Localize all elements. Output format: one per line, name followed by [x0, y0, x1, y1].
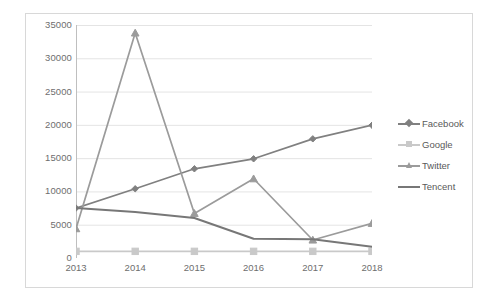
- data-point: [131, 29, 139, 36]
- data-point: [76, 248, 79, 254]
- x-axis-tick-label: 2018: [349, 262, 395, 274]
- legend-label: Google: [422, 139, 453, 150]
- y-axis-tick-label: 20000: [24, 120, 72, 130]
- y-axis-tick-label: 15000: [24, 153, 72, 163]
- x-axis-tick-label: 2014: [112, 262, 158, 274]
- legend-label: Tencent: [422, 181, 455, 192]
- series-line: [76, 208, 372, 247]
- legend-diamond-marker-icon: [405, 118, 413, 126]
- y-axis-tick-label: 25000: [24, 87, 72, 97]
- legend-label: Twitter: [422, 160, 450, 171]
- data-point: [191, 248, 197, 254]
- data-point: [368, 220, 372, 227]
- y-axis-tick-label: 10000: [24, 186, 72, 196]
- series-facebook: [76, 122, 372, 211]
- y-axis-tick-label: 30000: [24, 53, 72, 63]
- data-point: [132, 248, 138, 254]
- x-axis: 201320142015201620172018: [76, 262, 372, 278]
- y-axis: 35000300002500020000150001000050000: [20, 0, 72, 303]
- legend-triangle-marker-icon: [406, 162, 412, 168]
- data-point: [310, 248, 316, 254]
- data-point: [250, 175, 258, 182]
- data-point: [250, 156, 256, 162]
- x-axis-tick-label: 2015: [171, 262, 217, 274]
- legend-square-marker-icon: [406, 141, 412, 147]
- x-axis-tick-label: 2013: [53, 262, 99, 274]
- legend-item-facebook[interactable]: Facebook: [398, 113, 494, 134]
- legend-label: Facebook: [422, 118, 464, 129]
- y-axis-tick-label: 35000: [24, 20, 72, 30]
- data-point: [191, 210, 199, 217]
- data-point: [369, 122, 372, 128]
- x-axis-tick-label: 2016: [231, 262, 277, 274]
- data-point: [250, 248, 256, 254]
- legend-swatch-icon: [398, 118, 420, 130]
- legend-swatch-icon: [398, 160, 420, 172]
- chart-legend: FacebookGoogleTwitterTencent: [398, 113, 494, 197]
- data-point: [310, 136, 316, 142]
- legend-swatch-icon: [398, 139, 420, 151]
- data-point: [132, 186, 138, 192]
- series-google: [76, 248, 372, 254]
- data-point: [191, 166, 197, 172]
- legend-line: [398, 186, 420, 188]
- legend-item-tencent[interactable]: Tencent: [398, 176, 494, 197]
- legend-swatch-icon: [398, 181, 420, 193]
- y-axis-tick-label: 5000: [24, 220, 72, 230]
- plot-area: [76, 25, 372, 258]
- data-point: [369, 248, 372, 254]
- series-tencent: [76, 208, 372, 247]
- series-canvas: [76, 25, 372, 258]
- line-chart: 35000300002500020000150001000050000 2013…: [0, 0, 499, 303]
- legend-item-twitter[interactable]: Twitter: [398, 155, 494, 176]
- series-line: [76, 33, 372, 240]
- data-point: [76, 225, 80, 232]
- x-axis-tick-label: 2017: [290, 262, 336, 274]
- legend-item-google[interactable]: Google: [398, 134, 494, 155]
